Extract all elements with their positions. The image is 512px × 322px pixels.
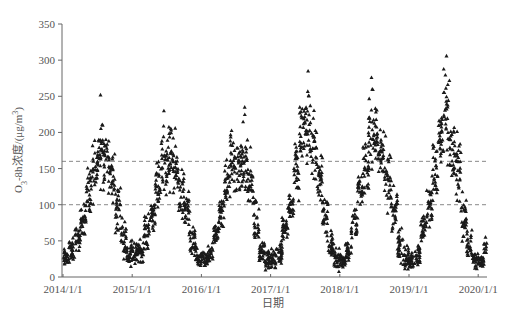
data-point bbox=[452, 126, 456, 130]
data-point bbox=[435, 191, 439, 195]
data-point bbox=[465, 229, 469, 233]
data-point bbox=[182, 195, 186, 199]
data-point bbox=[115, 202, 119, 206]
data-point bbox=[88, 193, 92, 197]
data-point bbox=[244, 185, 248, 189]
x-tick-label: 2020/1/1 bbox=[459, 283, 498, 295]
x-tick-label: 2019/1/1 bbox=[389, 283, 428, 295]
data-point bbox=[230, 128, 234, 132]
data-point bbox=[285, 235, 289, 239]
data-point bbox=[193, 228, 197, 232]
data-point bbox=[307, 113, 311, 117]
data-point bbox=[350, 236, 354, 240]
data-point bbox=[476, 252, 480, 256]
data-point bbox=[182, 177, 186, 181]
data-point bbox=[455, 178, 459, 182]
y-tick-label: 350 bbox=[39, 18, 56, 30]
data-point bbox=[187, 222, 191, 226]
data-point bbox=[173, 126, 177, 130]
data-point bbox=[162, 109, 166, 113]
data-point bbox=[191, 225, 195, 229]
data-point bbox=[374, 156, 378, 160]
data-point bbox=[370, 128, 374, 132]
data-point bbox=[438, 146, 442, 150]
data-point bbox=[450, 159, 454, 163]
data-point bbox=[460, 190, 464, 194]
data-point bbox=[309, 154, 313, 158]
data-point bbox=[228, 195, 232, 199]
data-point bbox=[392, 183, 396, 187]
data-point bbox=[314, 155, 318, 159]
data-point bbox=[164, 149, 168, 153]
x-tick-label: 2014/1/1 bbox=[43, 283, 82, 295]
data-point bbox=[312, 109, 316, 113]
data-point bbox=[210, 246, 214, 250]
data-point bbox=[305, 118, 309, 122]
data-point bbox=[382, 130, 386, 134]
y-tick-label: 150 bbox=[39, 163, 56, 175]
data-point bbox=[306, 89, 310, 93]
data-point bbox=[419, 239, 423, 243]
data-point bbox=[74, 248, 78, 252]
data-point bbox=[311, 116, 315, 120]
data-point bbox=[431, 156, 435, 160]
data-point bbox=[164, 193, 168, 197]
data-point bbox=[334, 246, 338, 250]
data-point bbox=[107, 191, 111, 195]
data-point bbox=[444, 86, 448, 90]
data-point bbox=[458, 142, 462, 146]
data-point bbox=[251, 195, 255, 199]
data-point bbox=[325, 234, 329, 238]
data-point bbox=[180, 168, 184, 172]
data-point bbox=[400, 226, 404, 230]
data-point bbox=[252, 212, 256, 216]
data-point bbox=[455, 130, 459, 134]
data-point bbox=[460, 239, 464, 243]
data-point bbox=[470, 228, 474, 232]
data-point bbox=[157, 164, 161, 168]
data-point bbox=[456, 182, 460, 186]
data-point bbox=[310, 171, 314, 175]
data-point bbox=[294, 145, 298, 149]
data-point bbox=[188, 229, 192, 233]
data-point bbox=[378, 128, 382, 132]
data-point bbox=[168, 190, 172, 194]
data-point bbox=[246, 167, 250, 171]
data-point bbox=[231, 141, 235, 145]
data-point bbox=[91, 144, 95, 148]
data-point bbox=[370, 76, 374, 80]
data-point bbox=[354, 227, 358, 231]
y-tick-label: 100 bbox=[39, 199, 56, 211]
data-point bbox=[99, 93, 103, 97]
data-point bbox=[304, 105, 308, 109]
data-point bbox=[457, 149, 461, 153]
data-point bbox=[434, 163, 438, 167]
data-point bbox=[374, 117, 378, 121]
data-point bbox=[115, 222, 119, 226]
data-point bbox=[294, 162, 298, 166]
data-point bbox=[99, 187, 103, 191]
data-point bbox=[246, 177, 250, 181]
data-point bbox=[405, 244, 409, 248]
data-point bbox=[162, 187, 166, 191]
data-point bbox=[87, 172, 91, 176]
data-point bbox=[442, 113, 446, 117]
data-point bbox=[120, 224, 124, 228]
data-point bbox=[292, 173, 296, 177]
x-tick-label: 2018/1/1 bbox=[320, 283, 359, 295]
data-point bbox=[385, 169, 389, 173]
data-point bbox=[455, 198, 459, 202]
data-point bbox=[171, 191, 175, 195]
data-point bbox=[297, 199, 301, 203]
y-axis-ticks: 050100150200250300350 bbox=[39, 18, 63, 283]
reference-lines bbox=[62, 161, 487, 204]
data-point bbox=[166, 138, 170, 142]
data-point bbox=[168, 135, 172, 139]
y-tick-label: 50 bbox=[44, 235, 56, 247]
data-point bbox=[320, 194, 324, 198]
data-point bbox=[298, 105, 302, 109]
data-point bbox=[484, 235, 488, 239]
data-point bbox=[102, 163, 106, 167]
data-point bbox=[243, 113, 247, 117]
data-point bbox=[252, 221, 256, 225]
